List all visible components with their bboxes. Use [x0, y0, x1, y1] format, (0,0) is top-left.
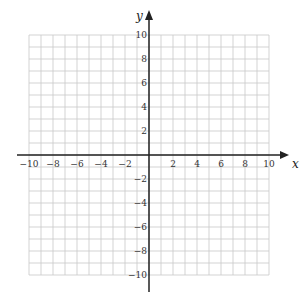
y-tick-label: 10	[136, 30, 148, 40]
x-tick-label: 2	[170, 159, 176, 169]
x-tick-labels: −10−8−6−4−2246810	[20, 159, 275, 169]
x-tick-label: 6	[218, 159, 224, 169]
x-tick-label: 10	[263, 159, 275, 169]
y-axis-label: y	[135, 9, 143, 23]
x-axis-label: x	[292, 157, 299, 171]
y-axis-arrow-icon	[145, 10, 153, 20]
x-tick-label: 4	[194, 159, 200, 169]
x-tick-label: −10	[20, 159, 39, 169]
y-tick-label: 6	[141, 78, 147, 88]
y-tick-label: −10	[128, 270, 147, 280]
y-tick-label: −2	[134, 174, 147, 184]
axes	[17, 10, 289, 292]
y-tick-label: 8	[141, 54, 147, 64]
y-tick-label: 2	[141, 126, 147, 136]
x-tick-label: 8	[242, 159, 248, 169]
x-tick-label: −2	[118, 159, 131, 169]
y-tick-label: −4	[134, 198, 148, 208]
y-tick-label: −6	[134, 222, 148, 232]
x-tick-label: −8	[46, 159, 60, 169]
x-tick-label: −6	[70, 159, 84, 169]
x-axis-arrow-icon	[280, 151, 289, 159]
y-tick-label: −8	[134, 246, 148, 256]
coordinate-plane: −10−8−6−4−2246810 108642−2−4−6−8−10 x y	[0, 0, 303, 295]
y-tick-label: 4	[141, 102, 147, 112]
x-tick-label: −4	[94, 159, 108, 169]
